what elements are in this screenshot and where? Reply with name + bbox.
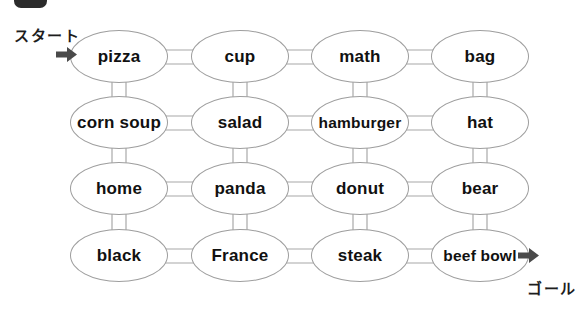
word-label: corn soup bbox=[77, 113, 161, 133]
word-node-pizza[interactable]: pizza bbox=[70, 30, 168, 83]
word-label: home bbox=[96, 179, 142, 199]
word-node-hat[interactable]: hat bbox=[431, 96, 529, 149]
word-node-math[interactable]: math bbox=[311, 30, 409, 83]
goal-arrow-icon bbox=[518, 247, 540, 264]
word-label: salad bbox=[218, 113, 262, 133]
word-label: beef bowl bbox=[443, 247, 516, 265]
question-number-badge bbox=[14, 0, 47, 8]
word-label: bear bbox=[462, 179, 499, 199]
word-label: math bbox=[339, 47, 380, 67]
word-node-bag[interactable]: bag bbox=[431, 30, 529, 83]
word-node-home[interactable]: home bbox=[70, 162, 168, 215]
word-node-donut[interactable]: donut bbox=[311, 162, 409, 215]
word-label: pizza bbox=[98, 47, 141, 67]
word-node-black[interactable]: black bbox=[70, 229, 168, 282]
word-maze-board: スタート pizza cup math bag corn soup salad … bbox=[0, 0, 588, 309]
word-label: hamburger bbox=[319, 114, 402, 132]
goal-label: ゴール bbox=[527, 277, 577, 298]
word-label: cup bbox=[225, 47, 256, 67]
word-node-salad[interactable]: salad bbox=[191, 96, 289, 149]
word-label: steak bbox=[338, 246, 382, 266]
word-label: black bbox=[97, 246, 141, 266]
word-node-corn-soup[interactable]: corn soup bbox=[70, 96, 168, 149]
word-label: hat bbox=[467, 113, 493, 133]
word-node-beef-bowl[interactable]: beef bowl bbox=[431, 229, 529, 282]
word-node-steak[interactable]: steak bbox=[311, 229, 409, 282]
word-node-hamburger[interactable]: hamburger bbox=[311, 96, 409, 149]
word-label: bag bbox=[465, 47, 496, 67]
word-node-bear[interactable]: bear bbox=[431, 162, 529, 215]
word-label: donut bbox=[336, 179, 384, 199]
word-node-panda[interactable]: panda bbox=[191, 162, 289, 215]
word-node-cup[interactable]: cup bbox=[191, 30, 289, 83]
word-node-france[interactable]: France bbox=[191, 229, 289, 282]
word-label: panda bbox=[214, 179, 265, 199]
start-label: スタート bbox=[14, 24, 80, 45]
start-arrow-icon bbox=[56, 46, 78, 63]
word-label: France bbox=[212, 246, 269, 266]
